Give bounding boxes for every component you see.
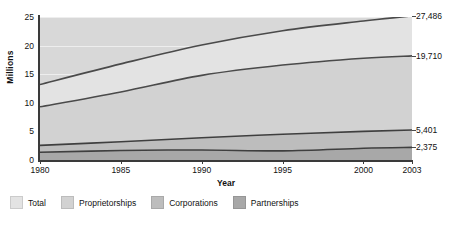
end-label-total: 27,486 [416,11,442,21]
x-axis-title: Year [0,178,452,188]
x-axis-tick-mark [363,160,364,164]
y-axis-tick-0: 0 [8,156,34,165]
y-axis-tick-25: 25 [8,13,34,22]
x-axis-tick-mark [202,160,203,164]
end-label-proprietorships: 19,710 [416,51,442,61]
legend-label: Corporations [169,198,218,208]
y-axis-tick-5: 5 [8,127,34,136]
legend-label: Total [28,198,46,208]
x-axis-tick-1990: 1990 [182,165,222,175]
legend-item-total[interactable]: Total [10,196,46,209]
series-band-partnerships [40,17,412,160]
x-axis-tick-mark [121,160,122,164]
chart-legend: TotalProprietorshipsCorporationsPartners… [10,196,314,209]
x-axis-tick-mark [283,160,284,164]
x-axis-tick-1995: 1995 [263,165,303,175]
x-axis-tick-1980: 1980 [20,165,60,175]
legend-swatch-icon [151,196,164,209]
end-label-partnerships: 2,375 [416,142,437,152]
legend-swatch-icon [233,196,246,209]
legend-swatch-icon [10,196,23,209]
legend-label: Proprietorships [79,198,136,208]
y-axis-line [38,15,40,162]
legend-swatch-icon [61,196,74,209]
end-label-corporations: 5,401 [416,125,437,135]
area-chart: Millions 2520151050 19801985199019952000… [0,0,468,226]
legend-label: Partnerships [251,198,299,208]
y-axis-tick-20: 20 [8,42,34,51]
legend-item-partnerships[interactable]: Partnerships [233,196,299,209]
y-axis-tick-15: 15 [8,70,34,79]
x-axis-line [38,160,412,162]
legend-item-corporations[interactable]: Corporations [151,196,218,209]
y-axis-tick-10: 10 [8,99,34,108]
x-axis-tick-mark [412,160,413,164]
x-axis-tick-mark [40,160,41,164]
x-axis-tick-1985: 1985 [101,165,141,175]
legend-item-proprietorships[interactable]: Proprietorships [61,196,136,209]
x-axis-tick-2003: 2003 [392,165,432,175]
x-axis-tick-2000: 2000 [343,165,383,175]
plot-area [40,17,412,160]
